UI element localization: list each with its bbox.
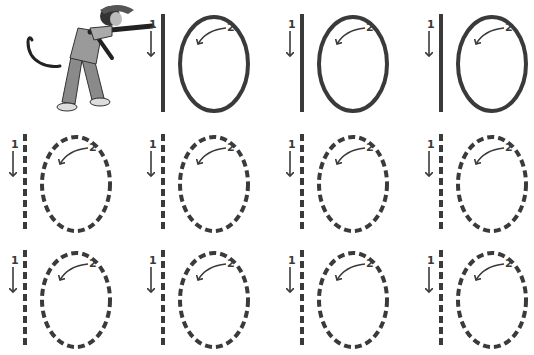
stroke-2-label: 2: [227, 21, 235, 34]
stroke-2-label: 2: [366, 21, 374, 34]
tracing-cell-r3-c1: 12: [11, 250, 110, 348]
curved-arrow-icon: [337, 148, 365, 164]
stroke-2-label: 2: [505, 257, 513, 270]
tracing-cell-r3-c2: 12: [149, 250, 248, 348]
curved-arrow-icon: [337, 28, 365, 44]
tracing-cell-r3-c3: 12: [288, 250, 387, 348]
stroke-1-label: 1: [149, 138, 157, 151]
curved-arrow-icon: [198, 264, 226, 280]
tracing-worksheet: 1212121212121212121212: [0, 0, 534, 355]
stroke-2-label: 2: [227, 141, 235, 154]
tracing-cell-r1-c3: 12: [288, 14, 387, 112]
tracing-cell-r2-c2: 12: [149, 134, 248, 232]
stroke-1-label: 1: [288, 18, 296, 31]
curved-arrow-icon: [476, 264, 504, 280]
curved-arrow-icon: [60, 148, 88, 164]
stroke-1-label: 1: [149, 18, 157, 31]
tracing-cell-r2-c1: 12: [11, 134, 110, 232]
stroke-2-label: 2: [505, 21, 513, 34]
stroke-2-label: 2: [89, 141, 97, 154]
stroke-1-label: 1: [11, 138, 19, 151]
curved-arrow-icon: [476, 28, 504, 44]
curved-arrow-icon: [60, 264, 88, 280]
stroke-1-label: 1: [288, 254, 296, 267]
tracing-cell-r1-c2: 12: [149, 14, 248, 112]
stroke-1-label: 1: [149, 254, 157, 267]
tracing-cell-r1-c4: 12: [427, 14, 526, 112]
stroke-1-label: 1: [427, 138, 435, 151]
tracing-cell-r3-c4: 12: [427, 250, 526, 348]
stroke-2-label: 2: [89, 257, 97, 270]
stroke-1-label: 1: [11, 254, 19, 267]
curved-arrow-icon: [198, 28, 226, 44]
stroke-2-label: 2: [505, 141, 513, 154]
monkey-mascot-icon: [28, 5, 152, 111]
stroke-1-label: 1: [288, 138, 296, 151]
stroke-2-label: 2: [366, 257, 374, 270]
stroke-1-label: 1: [427, 18, 435, 31]
tracing-cell-r2-c3: 12: [288, 134, 387, 232]
stroke-2-label: 2: [366, 141, 374, 154]
tracing-cell-r2-c4: 12: [427, 134, 526, 232]
curved-arrow-icon: [337, 264, 365, 280]
curved-arrow-icon: [198, 148, 226, 164]
stroke-1-label: 1: [427, 254, 435, 267]
curved-arrow-icon: [476, 148, 504, 164]
stroke-2-label: 2: [227, 257, 235, 270]
